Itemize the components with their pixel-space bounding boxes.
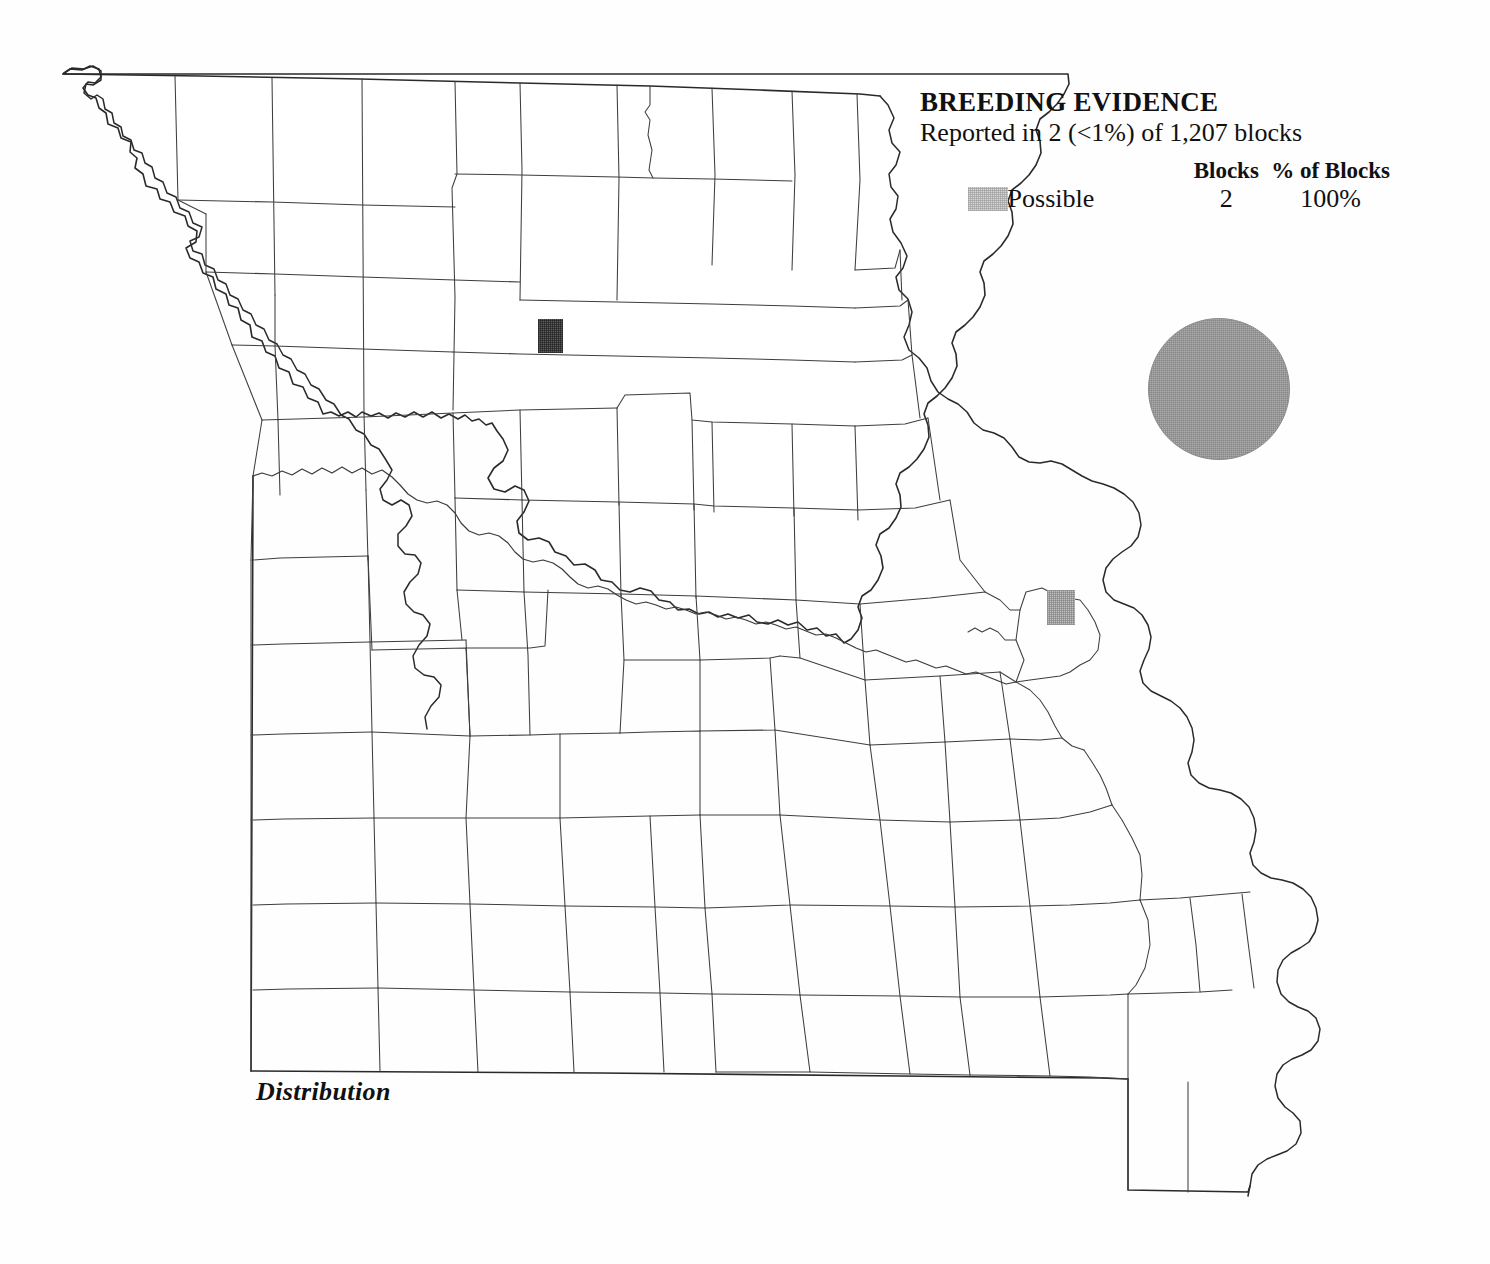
legend-header-row: Blocks % of Blocks xyxy=(920,158,1390,184)
bootheel-outline xyxy=(1128,1079,1250,1192)
block-marker-northwest xyxy=(538,319,563,353)
block-marker-east xyxy=(1047,590,1075,625)
legend-blocks-possible: 2 xyxy=(1181,184,1271,214)
legend-swatch-possible xyxy=(968,187,1008,211)
legend-header-spacer-swatch xyxy=(920,158,1008,184)
distribution-map-page: BREEDING EVIDENCE Reported in 2 (<1%) of… xyxy=(0,0,1490,1264)
legend-percent-possible: 100% xyxy=(1271,184,1390,214)
legend-table: Blocks % of Blocks Possible 2 100% xyxy=(920,158,1390,214)
legend-title: BREEDING EVIDENCE xyxy=(920,88,1420,116)
distribution-caption: Distribution xyxy=(256,1077,391,1107)
breeding-evidence-legend: BREEDING EVIDENCE Reported in 2 (<1%) of… xyxy=(920,88,1420,214)
legend-header-spacer-label xyxy=(1008,158,1182,184)
legend-swatch-cell xyxy=(920,184,1008,214)
species-photo-circle xyxy=(1148,318,1290,460)
legend-header-blocks: Blocks xyxy=(1181,158,1271,184)
legend-header-percent: % of Blocks xyxy=(1271,158,1390,184)
legend-subtitle: Reported in 2 (<1%) of 1,207 blocks xyxy=(920,118,1420,148)
legend-label-possible: Possible xyxy=(1008,184,1182,214)
legend-row-possible: Possible 2 100% xyxy=(920,184,1390,214)
